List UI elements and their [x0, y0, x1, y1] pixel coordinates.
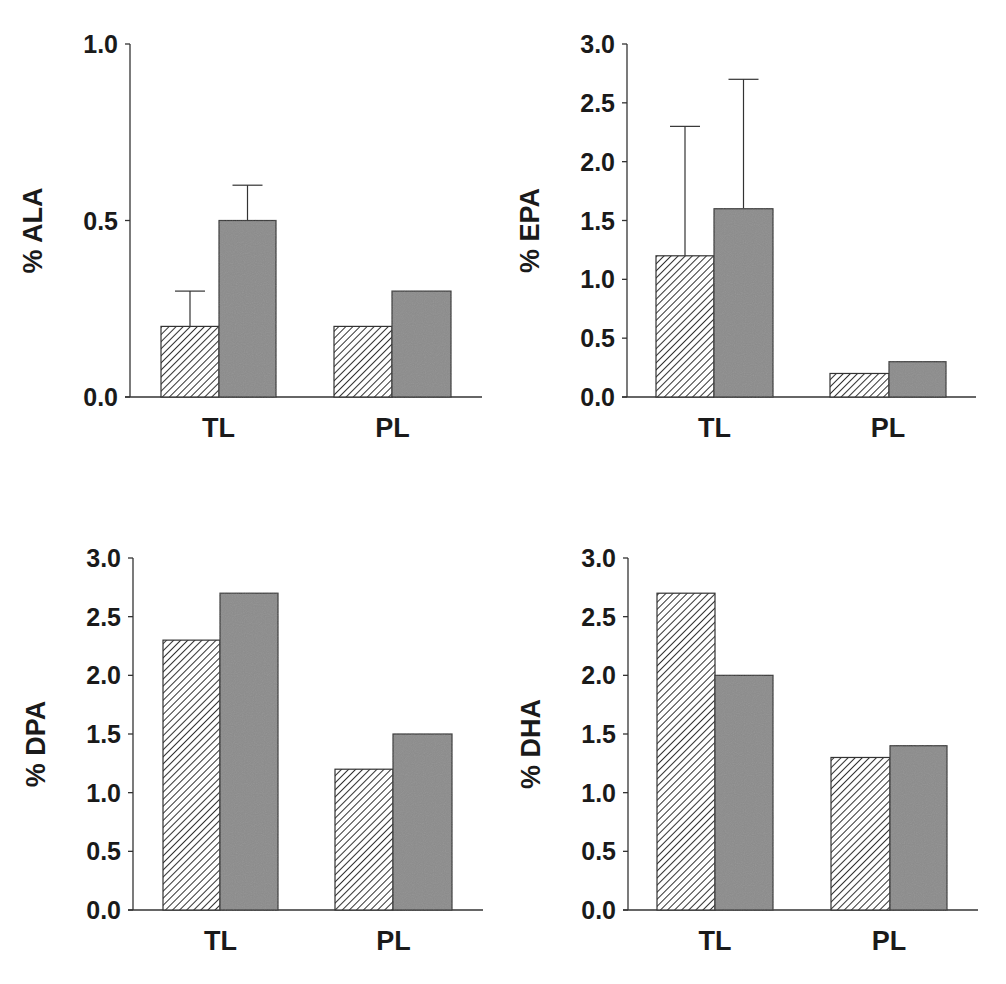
y-tick-label: 2.5 — [581, 603, 616, 631]
y-tick-label: 0.5 — [581, 837, 616, 865]
x-category-label-pl: PL — [872, 926, 907, 956]
chart-dha: 0.00.51.01.52.02.53.0% DHATLPL — [0, 0, 1006, 984]
chart-panel-dha: 0.00.51.01.52.02.53.0% DHATLPL — [0, 0, 1006, 984]
bar-tl-hatched — [657, 593, 715, 910]
y-tick-label: 2.0 — [581, 661, 616, 689]
y-tick-label: 3.0 — [581, 544, 616, 572]
bar-tl-gray — [715, 675, 773, 910]
y-tick-label: 0.0 — [581, 896, 616, 924]
bar-pl-gray — [890, 746, 947, 910]
y-axis-label: % DHA — [516, 699, 546, 789]
y-tick-label: 1.0 — [581, 779, 616, 807]
x-category-label-tl: TL — [699, 926, 732, 956]
bar-pl-hatched — [831, 757, 890, 910]
y-tick-label: 1.5 — [581, 720, 616, 748]
